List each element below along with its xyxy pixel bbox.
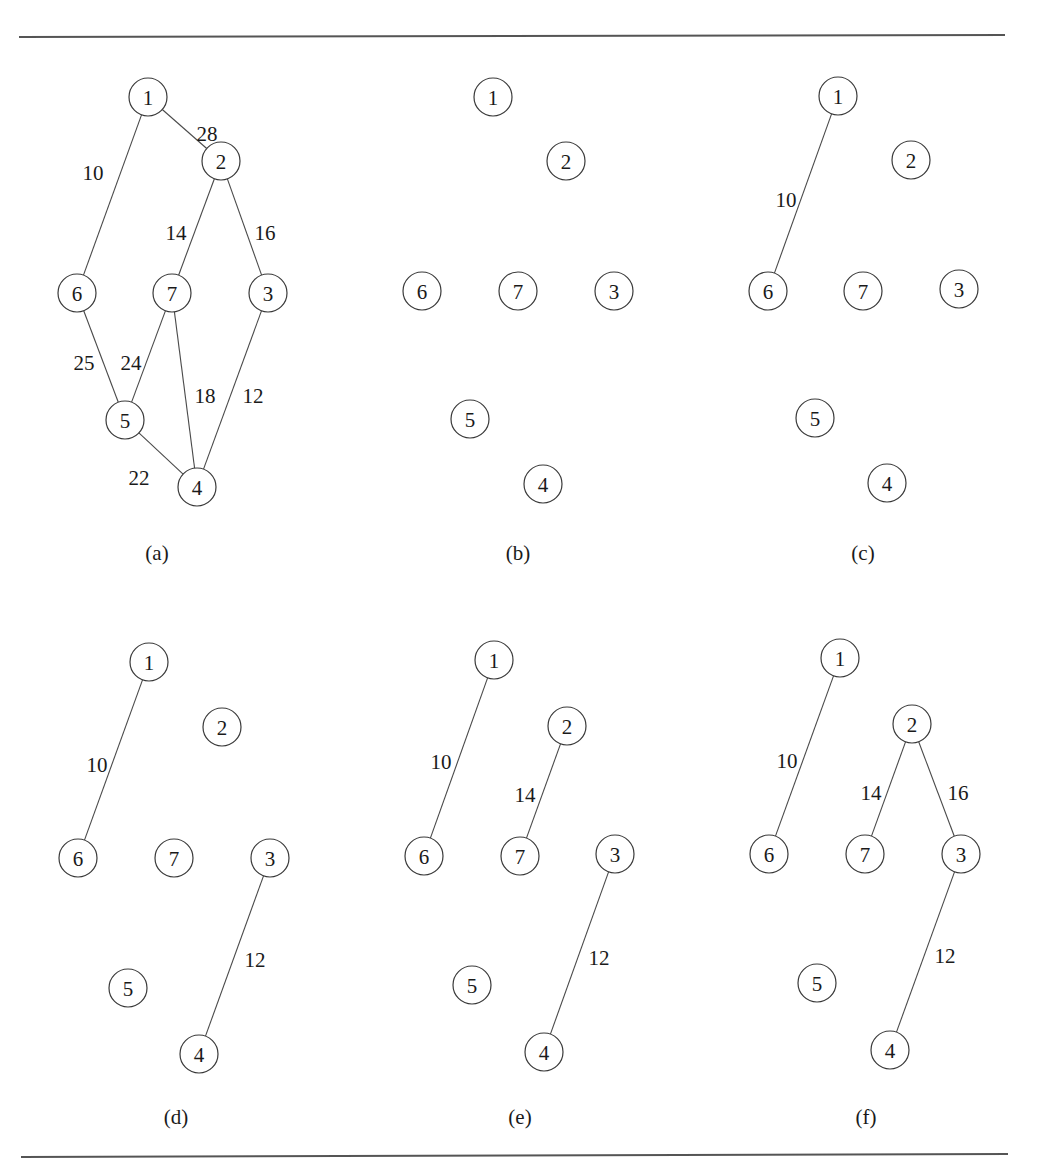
node-label: 3: [265, 847, 276, 871]
node-label: 2: [561, 150, 572, 174]
graph-node-4: 4: [524, 465, 562, 503]
graph-node-1: 1: [475, 641, 513, 679]
graph-node-4: 4: [868, 464, 906, 502]
graph-node-7: 7: [499, 272, 537, 310]
panel-caption: (d): [164, 1105, 189, 1129]
graph-node-2: 2: [892, 141, 930, 179]
edge-weight-label: 18: [195, 384, 216, 408]
node-label: 3: [263, 282, 274, 306]
node-label: 2: [216, 150, 227, 174]
node-label: 1: [833, 85, 844, 109]
graph-node-2: 2: [202, 142, 240, 180]
edge-weight-label: 14: [861, 781, 883, 805]
node-label: 3: [954, 278, 965, 302]
node-label: 7: [169, 847, 180, 871]
node-label: 2: [562, 715, 573, 739]
graph-node-7: 7: [153, 274, 191, 312]
graph-node-7: 7: [155, 839, 193, 877]
node-label: 6: [764, 843, 775, 867]
node-label: 5: [810, 407, 821, 431]
node-label: 4: [882, 472, 893, 496]
graph-node-5: 5: [453, 966, 491, 1004]
graph-node-6: 6: [749, 272, 787, 310]
graph-node-2: 2: [203, 708, 241, 746]
graph-node-6: 6: [59, 839, 97, 877]
edge-weight-label: 12: [245, 948, 266, 972]
graph-node-1: 1: [474, 78, 512, 116]
panel-caption: (e): [508, 1105, 531, 1129]
graph-node-1: 1: [819, 77, 857, 115]
graph-node-2: 2: [893, 705, 931, 743]
graph-node-3: 3: [595, 272, 633, 310]
node-label: 5: [467, 974, 478, 998]
graph-node-4: 4: [871, 1031, 909, 1069]
graph-node-1: 1: [821, 639, 859, 677]
node-label: 6: [73, 847, 84, 871]
node-label: 1: [488, 86, 499, 110]
node-label: 3: [609, 280, 620, 304]
edge-weight-label: 12: [935, 944, 956, 968]
graph-node-5: 5: [798, 964, 836, 1002]
node-label: 5: [120, 409, 131, 433]
node-label: 4: [194, 1043, 205, 1067]
node-label: 6: [763, 280, 774, 304]
panel-caption: (b): [506, 541, 531, 565]
graph-node-2: 2: [548, 707, 586, 745]
graph-node-4: 4: [178, 468, 216, 506]
panel-b: 1234567(b): [403, 78, 633, 565]
edge-7-4: [174, 312, 194, 468]
graph-node-5: 5: [106, 401, 144, 439]
graph-node-3: 3: [942, 835, 980, 873]
node-label: 7: [858, 280, 869, 304]
panel-caption: (a): [145, 541, 168, 565]
node-label: 2: [906, 149, 917, 173]
edge-weight-label: 14: [166, 221, 188, 245]
edge-weight-label: 16: [948, 781, 969, 805]
graph-node-4: 4: [525, 1033, 563, 1071]
graph-node-5: 5: [796, 399, 834, 437]
graph-node-1: 1: [130, 643, 168, 681]
panel-caption: (c): [851, 541, 874, 565]
edge-weight-label: 10: [776, 188, 797, 212]
graph-node-3: 3: [596, 835, 634, 873]
graph-node-5: 5: [451, 400, 489, 438]
node-label: 7: [167, 282, 178, 306]
graph-node-7: 7: [501, 837, 539, 875]
edge-weight-label: 12: [243, 384, 264, 408]
node-label: 2: [907, 713, 918, 737]
graph-node-1: 1: [129, 78, 167, 116]
edge-weight-label: 28: [197, 122, 218, 146]
graph-node-7: 7: [846, 835, 884, 873]
node-label: 1: [835, 647, 846, 671]
edge-weight-label: 24: [121, 351, 143, 375]
panel-caption: (f): [856, 1105, 877, 1129]
panel-e: 1014121234567(e): [405, 641, 634, 1129]
graph-node-6: 6: [405, 837, 443, 875]
node-label: 1: [144, 651, 155, 675]
node-label: 1: [143, 86, 154, 110]
graph-node-6: 6: [750, 835, 788, 873]
node-label: 3: [610, 843, 621, 867]
node-label: 7: [515, 845, 526, 869]
node-label: 6: [72, 282, 83, 306]
node-label: 4: [885, 1039, 896, 1063]
node-label: 7: [860, 843, 871, 867]
panel-a: 2810141625241812221234567(a): [58, 78, 287, 565]
node-label: 5: [123, 977, 134, 1001]
edge-weight-label: 16: [255, 221, 276, 245]
graph-node-3: 3: [251, 839, 289, 877]
node-label: 5: [465, 408, 476, 432]
node-label: 2: [217, 716, 228, 740]
edge-weight-label: 10: [83, 161, 104, 185]
node-label: 7: [513, 280, 524, 304]
kruskal-figure: 2810141625241812221234567(a)1234567(b)10…: [0, 0, 1037, 1174]
edge-weight-label: 12: [589, 946, 610, 970]
edge-weight-label: 10: [777, 749, 798, 773]
graph-node-5: 5: [109, 969, 147, 1007]
edge-weight-label: 25: [74, 351, 95, 375]
graph-node-6: 6: [403, 272, 441, 310]
graph-node-7: 7: [844, 272, 882, 310]
graph-node-6: 6: [58, 274, 96, 312]
node-label: 4: [539, 1041, 550, 1065]
graph-node-2: 2: [547, 142, 585, 180]
